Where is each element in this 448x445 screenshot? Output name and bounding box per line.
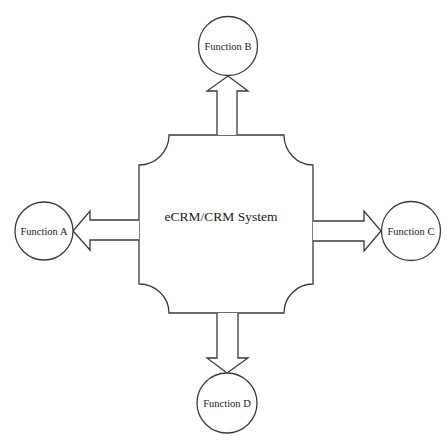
function-c-node: Function C xyxy=(382,202,441,261)
arrow-to-function-b xyxy=(207,76,248,135)
central-system-node: eCRM/CRM System xyxy=(139,135,313,313)
function-a-node: Function A xyxy=(15,202,73,260)
function-b-node: Function B xyxy=(199,17,258,76)
arrow-to-function-c xyxy=(313,211,381,251)
function-b-label: Function B xyxy=(205,41,252,52)
function-d-label: Function D xyxy=(203,398,251,409)
crm-function-diagram: eCRM/CRM System Function B Function A Fu… xyxy=(0,0,448,445)
function-a-label: Function A xyxy=(21,226,68,237)
function-d-node: Function D xyxy=(197,373,257,433)
arrow-to-function-d xyxy=(207,313,248,373)
function-c-label: Function C xyxy=(388,226,435,237)
central-system-label: eCRM/CRM System xyxy=(165,209,278,224)
central-box-shape xyxy=(139,135,313,313)
arrow-to-function-a xyxy=(73,211,139,250)
